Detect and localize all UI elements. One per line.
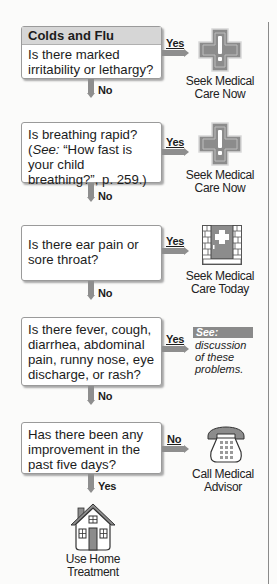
step-2-question-line: Is breathing rapid? [28,127,137,142]
step-3-question: Is there ear pain or sore throat? [22,226,161,270]
step-3-box: Is there ear pain or sore throat? [21,225,162,281]
step-2-question: Is breathing rapid? (See: “How fast is y… [22,123,161,190]
see-word: See: [32,142,59,157]
clinic-door-icon [202,225,242,265]
page-margin-rule [268,22,269,584]
step-1-no-label: No [98,84,112,96]
step-4-box: Is there fever, cough, diarrhea, abdomin… [21,317,162,386]
medical-cross-icon [198,28,242,72]
caption-line: Care Today [180,283,260,296]
flowchart-title: Colds and Flu [22,27,161,45]
see-reference-text: discussion of these problems. [195,339,255,375]
step-1-outcome-caption: Seek Medical Care Now [180,75,260,101]
step-5-box: Has there been any improvement in the pa… [21,422,162,474]
house-icon [70,503,116,551]
caption-line: Care Now [180,182,260,195]
step-1-yes-label: Yes [166,37,184,49]
caption-line: Care Now [180,88,260,101]
step-4-no-arrow [88,386,94,400]
step-3-outcome-caption: Seek Medical Care Today [180,270,260,296]
step-3-no-label: No [98,287,112,299]
step-2-yes-arrow [162,149,184,155]
medical-cross-icon [198,122,242,166]
caption-line: Advisor [183,481,263,494]
step-1-box: Colds and Flu Is there marked irritabili… [21,26,162,79]
step-2-no-arrow [88,183,94,197]
step-1-question: Is there marked irritability or lethargy… [22,45,161,80]
telephone-icon [205,420,247,464]
step-1-yes-arrow [162,50,184,56]
step-4-yes-label: Yes [166,333,184,345]
step-2-yes-label: Yes [166,136,184,148]
step-4-question: Is there fever, cough, diarrhea, abdomin… [22,318,161,385]
step-4-no-label: No [98,390,112,402]
step-5-no-outcome-caption: Call Medical Advisor [183,468,263,494]
step-3-yes-label: Yes [166,235,184,247]
see-tag: See: [193,327,253,338]
step-4-yes-arrow [162,346,184,352]
step-5-yes-outcome-caption: Use Home Treatment [53,553,133,579]
step-5-no-label: No [167,433,181,445]
step-3-yes-arrow [162,248,184,254]
step-5-question: Has there been any improvement in the pa… [22,423,161,475]
step-5-no-arrow [162,446,184,452]
step-1-no-arrow [88,79,94,93]
step-2-outcome-caption: Seek Medical Care Now [180,169,260,195]
step-5-yes-label: Yes [98,480,116,492]
step-2-box: Is breathing rapid? (See: “How fast is y… [21,122,162,183]
step-3-no-arrow [88,281,94,295]
step-5-yes-arrow [88,474,94,488]
step-2-no-label: No [98,190,112,202]
caption-line: Treatment [53,566,133,579]
